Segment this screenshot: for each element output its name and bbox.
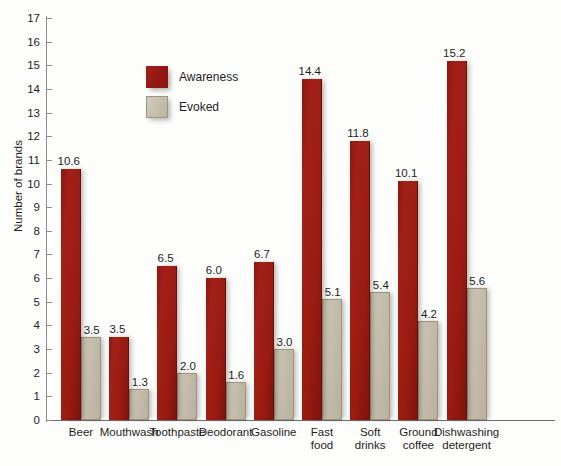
x-axis-line bbox=[46, 420, 555, 421]
legend-item-awareness: Awareness bbox=[146, 66, 238, 88]
y-axis-tick-label: 8 bbox=[0, 225, 40, 237]
bar-evoked-beer: 3.5 bbox=[81, 337, 101, 420]
bar-value-label: 6.5 bbox=[158, 252, 174, 264]
bar-evoked-toothpaste: 2.0 bbox=[177, 373, 197, 420]
bar-awareness-beer: 10.6 bbox=[61, 169, 81, 420]
y-axis-tick-label: 5 bbox=[0, 296, 40, 308]
y-axis-tick-label: 10 bbox=[0, 178, 40, 190]
y-axis-tick-label: 13 bbox=[0, 107, 40, 119]
y-axis-tick bbox=[46, 420, 52, 421]
bars-layer: 10.63.53.51.36.52.06.01.66.73.014.45.111… bbox=[46, 18, 555, 420]
bar-awareness-ground-coffee: 10.1 bbox=[398, 181, 418, 420]
bar-chart: Number of brands 01234567891011121314151… bbox=[0, 0, 561, 466]
bar-evoked-ground-coffee: 4.2 bbox=[418, 321, 438, 420]
bar-value-label: 1.3 bbox=[132, 376, 148, 388]
bar-value-label: 3.5 bbox=[84, 324, 100, 336]
y-axis-tick-label: 15 bbox=[0, 59, 40, 71]
bar-awareness-deodorant: 6.0 bbox=[206, 278, 226, 420]
bar-evoked-soft-drinks: 5.4 bbox=[370, 292, 390, 420]
legend-swatch-evoked-icon bbox=[146, 96, 168, 118]
bar-value-label: 6.7 bbox=[254, 248, 270, 260]
bar-value-label: 1.6 bbox=[228, 369, 244, 381]
y-axis-tick-label: 14 bbox=[0, 83, 40, 95]
y-axis-tick-label: 6 bbox=[0, 272, 40, 284]
bar-value-label: 5.1 bbox=[325, 286, 341, 298]
legend-label: Awareness bbox=[179, 70, 238, 84]
y-axis-tick-label: 1 bbox=[0, 390, 40, 402]
y-axis-tick-label: 3 bbox=[0, 343, 40, 355]
bar-evoked-deodorant: 1.6 bbox=[226, 382, 246, 420]
legend-swatch-awareness-icon bbox=[146, 66, 168, 88]
bar-evoked-fast-food: 5.1 bbox=[322, 299, 342, 420]
bar-awareness-dishwashing-detergent: 15.2 bbox=[447, 61, 467, 420]
legend: AwarenessEvoked bbox=[146, 66, 238, 126]
bar-awareness-fast-food: 14.4 bbox=[302, 79, 322, 420]
bar-value-label: 15.2 bbox=[443, 47, 465, 59]
bar-awareness-toothpaste: 6.5 bbox=[157, 266, 177, 420]
x-axis-label-dishwashing-detergent: Dishwashing detergent bbox=[427, 426, 507, 452]
bar-value-label: 5.4 bbox=[373, 279, 389, 291]
y-axis-tick-label: 9 bbox=[0, 201, 40, 213]
bar-value-label: 5.6 bbox=[469, 275, 485, 287]
bar-awareness-mouthwash: 3.5 bbox=[109, 337, 129, 420]
bar-value-label: 3.5 bbox=[109, 323, 125, 335]
bar-value-label: 3.0 bbox=[276, 336, 292, 348]
bar-value-label: 2.0 bbox=[180, 360, 196, 372]
plot-area: 10.63.53.51.36.52.06.01.66.73.014.45.111… bbox=[46, 18, 555, 420]
bar-evoked-dishwashing-detergent: 5.6 bbox=[467, 288, 487, 420]
y-axis-tick-label: 0 bbox=[0, 414, 40, 426]
y-axis-tick-label: 2 bbox=[0, 367, 40, 379]
y-axis-tick-label: 12 bbox=[0, 130, 40, 142]
bar-evoked-gasoline: 3.0 bbox=[274, 349, 294, 420]
legend-item-evoked: Evoked bbox=[146, 96, 238, 118]
bar-value-label: 14.4 bbox=[299, 65, 321, 77]
bar-awareness-gasoline: 6.7 bbox=[254, 262, 274, 420]
legend-label: Evoked bbox=[179, 100, 219, 114]
y-axis-tick-label: 11 bbox=[0, 154, 40, 166]
y-axis-tick-label: 4 bbox=[0, 319, 40, 331]
bar-value-label: 10.6 bbox=[58, 155, 80, 167]
y-axis-tick-label: 17 bbox=[0, 12, 40, 24]
bar-value-label: 11.8 bbox=[347, 127, 369, 139]
y-axis-tick-label: 16 bbox=[0, 36, 40, 48]
bar-value-label: 4.2 bbox=[421, 308, 437, 320]
bar-value-label: 6.0 bbox=[206, 264, 222, 276]
y-axis-tick-label: 7 bbox=[0, 248, 40, 260]
bar-evoked-mouthwash: 1.3 bbox=[129, 389, 149, 420]
bar-awareness-soft-drinks: 11.8 bbox=[350, 141, 370, 420]
bar-value-label: 10.1 bbox=[395, 167, 417, 179]
